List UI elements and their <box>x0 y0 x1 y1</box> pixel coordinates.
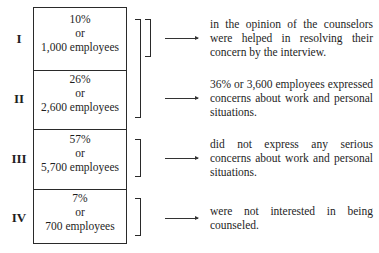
divider-1 <box>34 70 126 71</box>
cell-group-iv: 7% or 700 employees <box>34 191 126 233</box>
bracket-i-ii <box>135 19 141 118</box>
percent-ii: 26% <box>34 72 126 86</box>
arrow-right-icon-i <box>165 38 198 39</box>
bracket-iv <box>135 198 141 236</box>
arrow-right-icon-iii <box>165 158 198 159</box>
percent-iv: 7% <box>34 191 126 205</box>
row-label-ii: II <box>8 91 30 107</box>
bracket-i <box>145 19 151 57</box>
cell-group-i: 10% or 1,000 employees <box>34 12 126 54</box>
employees-iv: 700 employees <box>34 219 126 233</box>
cell-group-ii: 26% or 2,600 employees <box>34 72 126 114</box>
employees-ii: 2,600 employees <box>34 100 126 114</box>
connector-iv: or <box>34 205 126 219</box>
bracket-iii <box>135 139 141 177</box>
description-iv: were not interested in being counseled. <box>210 204 373 232</box>
cell-group-iii: 57% or 5,700 employees <box>34 132 126 174</box>
description-iii: did not express any serious concerns abo… <box>210 137 373 179</box>
employees-iii: 5,700 employees <box>34 160 126 174</box>
employees-i: 1,000 employees <box>34 40 126 54</box>
connector-i: or <box>34 26 126 40</box>
row-label-i: I <box>8 31 30 47</box>
description-ii: 36% or 3,600 employees expressed concern… <box>210 77 373 119</box>
row-label-iii: III <box>8 151 30 167</box>
percent-iii: 57% <box>34 132 126 146</box>
connector-ii: or <box>34 86 126 100</box>
arrow-right-icon-iv <box>165 218 198 219</box>
divider-3 <box>34 189 126 190</box>
connector-iii: or <box>34 146 126 160</box>
arrow-right-icon-ii <box>165 98 198 99</box>
row-label-iv: IV <box>8 210 30 226</box>
divider-2 <box>34 129 126 130</box>
description-i: in the opinion of the counselors were he… <box>210 17 373 59</box>
percent-i: 10% <box>34 12 126 26</box>
employee-distribution-box: 10% or 1,000 employees 26% or 2,600 empl… <box>33 7 127 244</box>
